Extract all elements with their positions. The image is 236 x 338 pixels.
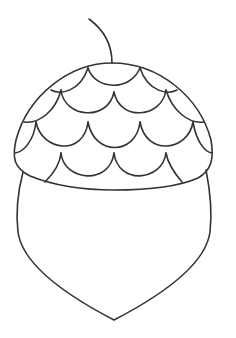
cap-scale (51, 68, 88, 92)
cap-scale (88, 122, 140, 148)
cap-scale (61, 90, 114, 113)
cap-scale (193, 122, 212, 153)
cap-scale (45, 153, 61, 182)
acorn-nut-body (17, 170, 211, 320)
cap-scale (36, 122, 88, 146)
cap-scale (114, 153, 166, 176)
acorn-cap-outline (14, 63, 212, 190)
cap-scale (15, 122, 36, 153)
cap-scale (140, 68, 177, 92)
cap-scale (88, 68, 140, 85)
acorn-stem (89, 19, 112, 63)
cap-scale (61, 153, 114, 176)
acorn-cap-scales (15, 68, 212, 182)
cap-scale (114, 90, 166, 113)
acorn-drawing (0, 0, 236, 338)
cap-scale (166, 153, 182, 182)
cap-scale (140, 122, 193, 146)
